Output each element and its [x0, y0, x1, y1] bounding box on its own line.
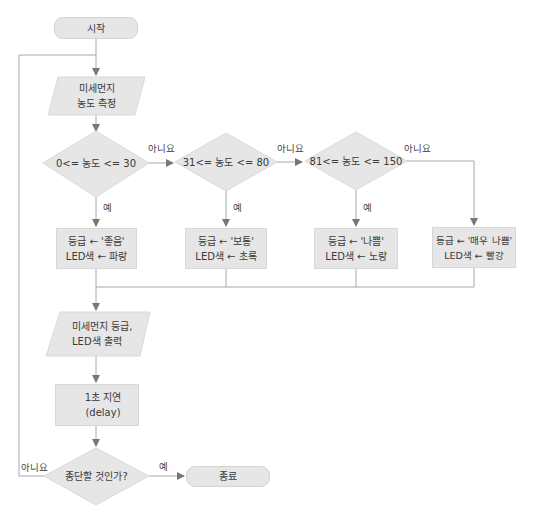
- result-normal-grade: 등급 ← '보통': [198, 234, 254, 249]
- output-line2: LED색 출력: [72, 334, 122, 349]
- result-box-normal: 등급 ← '보통' LED색 ← 초록: [185, 228, 267, 269]
- delay-label: 1초 지연(delay): [68, 390, 138, 420]
- result-normal-led: LED색 ← 초록: [195, 249, 256, 264]
- measure-line1: 미세먼지: [79, 81, 115, 96]
- result-good-grade: 등급 ← '좋음': [68, 234, 124, 249]
- result-box-very-bad: 등급 ← '매우 나쁨' LED색 ← 빨강: [432, 227, 516, 268]
- end-label: 종료: [219, 469, 237, 484]
- output-line1: 미세먼지 등급,: [72, 319, 132, 334]
- stop-check-text: 종단할 것인가?: [65, 469, 128, 484]
- delay-box: 1초 지연(delay): [55, 384, 139, 426]
- result-very-bad-grade: 등급 ← '매우 나쁨': [436, 233, 512, 248]
- result-good-led: LED색 ← 파랑: [66, 249, 127, 264]
- condition-3-no-label: 아니요: [404, 141, 431, 155]
- result-bad-led: LED색 ← 노랑: [325, 249, 386, 264]
- condition-2-text: 31<= 농도 <= 80: [183, 155, 270, 170]
- condition-2-no-label: 아니요: [277, 141, 304, 155]
- start-label: 시작: [87, 21, 105, 36]
- condition-1-yes-label: 예: [103, 200, 112, 214]
- condition-1-no-label: 아니요: [148, 141, 175, 155]
- stop-check-yes-label: 예: [159, 459, 168, 473]
- result-very-bad-led: LED색 ← 빨강: [444, 248, 504, 263]
- end-terminal: 종료: [186, 466, 270, 487]
- condition-3-text: 81<= 농도 <= 150: [310, 154, 403, 169]
- stop-check-no-label: 아니요: [21, 460, 48, 474]
- condition-3-yes-label: 예: [363, 200, 372, 214]
- stop-check: 종단할 것인가?: [44, 468, 149, 484]
- result-box-bad: 등급 ← '나쁨' LED색 ← 노랑: [314, 228, 398, 269]
- start-terminal: 시작: [54, 17, 138, 39]
- measure-node: 미세먼지 농도 측정: [48, 77, 145, 115]
- condition-1-text: 0<= 농도 <= 30: [56, 156, 136, 171]
- condition-3: 81<= 농도 <= 150: [305, 153, 407, 169]
- output-node: 미세먼지 등급, LED색 출력: [52, 312, 146, 356]
- condition-2: 31<= 농도 <= 80: [175, 154, 277, 170]
- result-bad-grade: 등급 ← '나쁨': [328, 234, 384, 249]
- result-box-good: 등급 ← '좋음' LED색 ← 파랑: [56, 228, 137, 269]
- measure-line2: 농도 측정: [77, 96, 116, 111]
- condition-1: 0<= 농도 <= 30: [43, 155, 149, 171]
- condition-2-yes-label: 예: [233, 200, 242, 214]
